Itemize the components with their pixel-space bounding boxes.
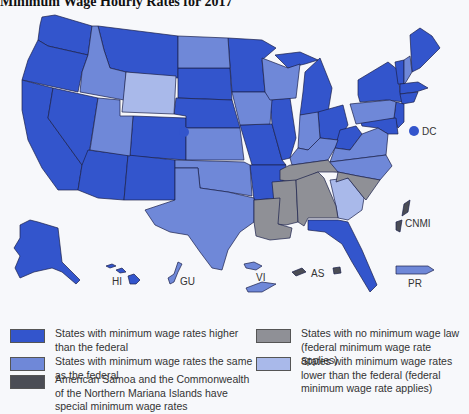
legend-item-special: American Samoa and the Commonwealth of t… bbox=[10, 373, 255, 414]
state-ks[interactable] bbox=[186, 128, 244, 160]
label-as: AS bbox=[311, 268, 325, 279]
legend-item-lower: States with minimum wage rates lower tha… bbox=[256, 355, 466, 396]
state-hi[interactable] bbox=[128, 274, 140, 284]
state-co[interactable] bbox=[130, 116, 186, 160]
legend-swatch-special bbox=[10, 375, 45, 389]
territory-vi[interactable] bbox=[244, 262, 262, 270]
legend-swatch-none bbox=[256, 329, 291, 343]
state-ct-ri[interactable] bbox=[400, 92, 418, 104]
state-fl[interactable] bbox=[308, 220, 377, 292]
state-wy[interactable] bbox=[122, 72, 176, 114]
legend-label-special: American Samoa and the Commonwealth of t… bbox=[55, 373, 255, 414]
map-legend: States with minimum wage rates higher th… bbox=[0, 300, 469, 408]
state-mi[interactable] bbox=[300, 58, 332, 115]
legend-swatch-same bbox=[10, 357, 45, 371]
state-hi-2[interactable] bbox=[106, 264, 116, 268]
state-ak[interactable] bbox=[14, 220, 80, 284]
dc-dot[interactable] bbox=[409, 126, 419, 136]
state-sd[interactable] bbox=[178, 68, 232, 100]
label-hi: HI bbox=[112, 276, 122, 287]
label-vi: VI bbox=[256, 272, 265, 283]
legend-label-higher: States with minimum wage rates higher th… bbox=[55, 327, 255, 354]
label-pr: PR bbox=[408, 278, 422, 289]
legend-item-higher: States with minimum wage rates higher th… bbox=[10, 327, 255, 354]
label-gu: GU bbox=[180, 276, 195, 287]
territory-cnmi-2[interactable] bbox=[396, 220, 402, 232]
label-cnmi: CNMI bbox=[405, 218, 431, 229]
territory-as-2[interactable] bbox=[333, 267, 341, 274]
territory-cnmi[interactable] bbox=[402, 200, 410, 216]
state-me[interactable] bbox=[410, 28, 440, 72]
label-dc: DC bbox=[422, 126, 436, 137]
legend-swatch-higher bbox=[10, 329, 45, 343]
legend-label-lower: States with minimum wage rates lower tha… bbox=[301, 355, 466, 396]
state-nh[interactable] bbox=[404, 56, 412, 84]
dc-marker[interactable] bbox=[179, 127, 189, 137]
state-hi-3[interactable] bbox=[116, 268, 126, 273]
state-az[interactable] bbox=[78, 150, 128, 200]
state-nm[interactable] bbox=[124, 155, 175, 200]
legend-swatch-lower bbox=[256, 357, 291, 371]
state-nd[interactable] bbox=[178, 36, 230, 68]
us-minimum-wage-map: DC CNMI HI GU VI AS PR bbox=[0, 0, 469, 300]
territory-as[interactable] bbox=[292, 268, 306, 276]
territory-vi-2[interactable] bbox=[246, 282, 276, 292]
territory-pr[interactable] bbox=[396, 266, 434, 274]
